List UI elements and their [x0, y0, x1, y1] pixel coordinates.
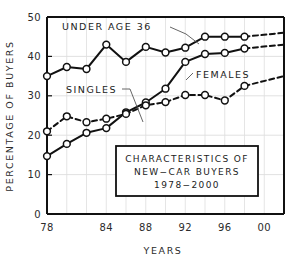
- title-box: CHARACTERISTICS OF NEW−CAR BUYERS 1978−2…: [116, 146, 258, 196]
- x-tick-label: 96: [218, 222, 232, 233]
- y-tick-label: 10: [27, 169, 41, 180]
- data-point-marker: [162, 99, 169, 106]
- x-tick-label: 92: [178, 222, 192, 233]
- data-point-marker: [221, 33, 228, 40]
- data-point-marker: [103, 125, 110, 132]
- y-tick-label: 30: [27, 90, 41, 101]
- y-tick-label: 0: [34, 209, 41, 220]
- data-point-marker: [241, 33, 248, 40]
- data-point-marker: [202, 92, 209, 99]
- data-point-marker: [221, 50, 228, 57]
- data-point-marker: [83, 129, 90, 136]
- y-axis-title: PERCENTAGE OF BUYERS: [4, 40, 15, 191]
- x-tick-label: 00: [257, 222, 271, 233]
- data-point-marker: [44, 153, 51, 160]
- annotation-singles: SINGLES: [66, 84, 117, 95]
- data-point-marker: [123, 111, 130, 118]
- data-point-marker: [44, 73, 51, 80]
- data-point-marker: [241, 83, 248, 90]
- data-point-marker: [202, 51, 209, 58]
- y-tick-label: 20: [27, 130, 41, 141]
- x-tick-label: 84: [99, 222, 113, 233]
- annotation-females: FEMALES: [196, 69, 250, 80]
- data-point-marker: [103, 41, 110, 48]
- data-point-marker: [162, 49, 169, 56]
- title-line-3: 1978−2000: [154, 180, 220, 190]
- data-point-marker: [182, 92, 189, 99]
- chart-figure: 01020304050 788488929600 UNDER AGE 36 SI…: [0, 0, 297, 266]
- data-point-marker: [182, 59, 189, 66]
- data-point-marker: [142, 102, 149, 109]
- x-axis-title: YEARS: [143, 245, 183, 256]
- data-point-marker: [83, 119, 90, 126]
- data-point-marker: [63, 64, 70, 71]
- data-point-marker: [123, 59, 130, 66]
- y-tick-label: 50: [27, 12, 41, 23]
- data-point-marker: [202, 33, 209, 40]
- x-tick-label: 78: [40, 222, 54, 233]
- data-point-marker: [182, 44, 189, 51]
- y-tick-label: 40: [27, 51, 41, 62]
- x-tick-label: 88: [139, 222, 153, 233]
- line-chart: 01020304050 788488929600 UNDER AGE 36 SI…: [0, 0, 297, 266]
- data-point-marker: [103, 115, 110, 122]
- data-point-marker: [221, 97, 228, 104]
- data-point-marker: [83, 66, 90, 73]
- data-point-marker: [63, 141, 70, 148]
- data-point-marker: [162, 85, 169, 92]
- data-point-marker: [241, 45, 248, 52]
- title-line-1: CHARACTERISTICS OF: [125, 154, 249, 164]
- data-point-marker: [142, 44, 149, 51]
- annotation-under-age-36: UNDER AGE 36: [62, 21, 152, 32]
- data-point-marker: [63, 113, 70, 120]
- data-point-marker: [44, 128, 51, 135]
- title-line-2: NEW−CAR BUYERS: [134, 167, 240, 177]
